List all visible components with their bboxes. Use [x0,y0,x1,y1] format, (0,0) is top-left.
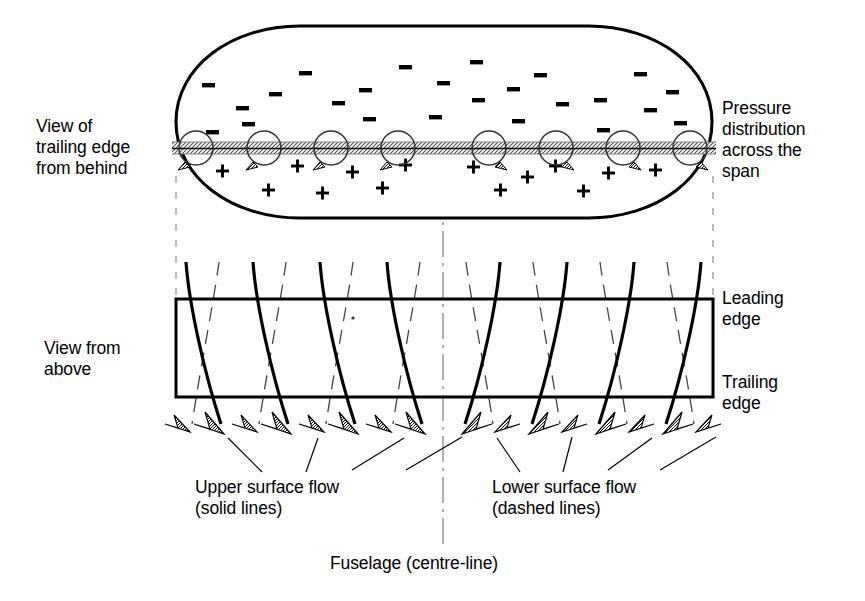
leader-lower-flow [660,437,716,470]
flow-arrowhead [562,415,587,432]
minus-sign [507,87,520,91]
minus-sign [332,101,345,105]
minus-sign [597,128,610,132]
minus-sign [472,98,485,102]
lower-streamline [466,262,493,424]
flow-arrowhead [696,415,721,432]
minus-sign [269,92,282,96]
leader-upper-flow [228,438,262,472]
leader-lower-flow [497,438,520,472]
minus-sign [470,60,483,64]
minus-sign [644,108,657,112]
minus-sign [634,72,647,76]
caption-leader-lines [228,437,716,472]
leader-upper-flow [406,437,462,470]
flow-arrowhead [495,415,520,432]
label-lower-surface-flow: Lower surface flow (dashed lines) [492,477,636,519]
minus-sign [299,71,312,75]
minus-sign [399,65,412,69]
lower-streamline [667,262,694,424]
minus-sign [206,130,219,134]
label-view-trailing-edge: View of trailing edge from behind [36,116,130,179]
minus-sign [666,90,679,94]
wing-planform-box [176,299,713,397]
leader-lower-flow [608,438,652,470]
label-leading-edge: Leading edge [722,288,784,330]
minus-sign [429,115,442,119]
minus-sign [363,117,376,121]
leader-lower-flow [563,437,572,472]
scan-speck [351,316,354,319]
label-fuselage-centreline: Fuselage (centre-line) [330,553,498,574]
leader-upper-flow [306,438,318,472]
pressure-oval-outline [176,26,712,218]
aerodynamics-diagram: View of trailing edge from behind Pressu… [0,0,865,601]
minus-sign [359,88,372,92]
flow-arrowhead [299,415,324,432]
flow-arrowhead [629,415,654,432]
minus-sign [534,73,547,77]
minus-sign [437,81,450,85]
minus-sign [674,121,687,125]
minus-sign [202,83,215,87]
rear-view-pressure-oval [172,26,716,218]
minus-sign [236,106,249,110]
label-view-from-above: View from above [44,338,121,380]
lower-streamline [600,262,627,424]
minus-sign [242,122,255,126]
lower-streamline [533,262,560,424]
minus-sign [512,119,525,123]
flow-arrowhead [232,415,257,432]
flow-arrowhead [366,415,391,432]
minus-sign [594,98,607,102]
flow-arrowhead [165,415,190,432]
label-upper-surface-flow: Upper surface flow (solid lines) [195,477,339,519]
label-pressure-distribution: Pressure distribution across the span [722,98,805,182]
label-trailing-edge: Trailing edge [722,372,778,414]
leader-upper-flow [352,438,404,470]
minus-sign [556,102,569,106]
